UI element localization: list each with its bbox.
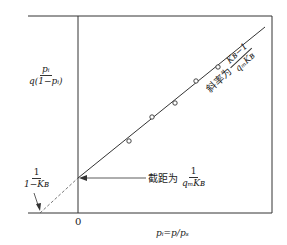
data-point [127,139,131,143]
intercept-denominator: qₘKʙ [180,178,207,188]
intercept-text: 截距为 [148,170,178,185]
origin-label: 0 [75,216,81,227]
data-point [173,101,177,105]
x-intercept-arrow-icon [36,203,41,211]
intercept-fraction: 1 qₘKʙ [180,167,207,189]
x-intercept-denominator: 1−Kʙ [22,179,51,189]
intercept-annotation: 截距为 1 qₘKʙ [148,167,207,189]
y-axis-label: pᵢ q(1−pᵢ) [27,65,65,87]
intercept-numerator: 1 [189,167,199,178]
y-label-numerator: pᵢ [40,65,52,76]
data-point [194,79,198,83]
x-axis-label: pᵢ=p/pₛ [156,228,189,238]
y-label-denominator: q(1−pᵢ) [27,76,65,86]
x-intercept-label: 1 1−Kʙ [22,168,51,190]
data-point [150,115,154,119]
plot-canvas [0,0,287,245]
x-intercept-numerator: 1 [32,168,42,179]
